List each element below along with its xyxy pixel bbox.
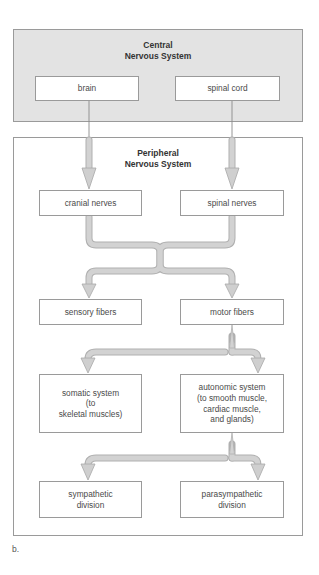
pns-title-line1: Peripheral [14, 148, 302, 159]
node-cranial-nerves: cranial nerves [39, 190, 142, 216]
node-motor-fibers: motor fibers [180, 299, 284, 325]
pns-title-line2: Nervous System [14, 159, 302, 170]
node-spinal-nerves: spinal nerves [180, 190, 284, 216]
pns-title: Peripheral Nervous System [14, 148, 302, 169]
cns-title-line2: Nervous System [14, 51, 302, 62]
cns-title-line1: Central [14, 40, 302, 51]
node-spinal-cord: spinal cord [175, 76, 280, 101]
node-brain: brain [35, 76, 139, 101]
node-parasympathetic-division: parasympathetic division [180, 481, 284, 518]
node-autonomic-system: autonomic system (to smooth muscle, card… [180, 374, 284, 433]
node-sympathetic-division: sympathetic division [39, 481, 142, 518]
node-somatic-system: somatic system (to skeletal muscles) [39, 374, 142, 433]
figure-caption: b. [12, 544, 19, 554]
node-sensory-fibers: sensory fibers [39, 299, 142, 325]
cns-title: Central Nervous System [14, 40, 302, 61]
